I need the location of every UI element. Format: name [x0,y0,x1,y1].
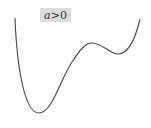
potential-curve [15,18,140,113]
potential-curve-plot [0,0,151,128]
